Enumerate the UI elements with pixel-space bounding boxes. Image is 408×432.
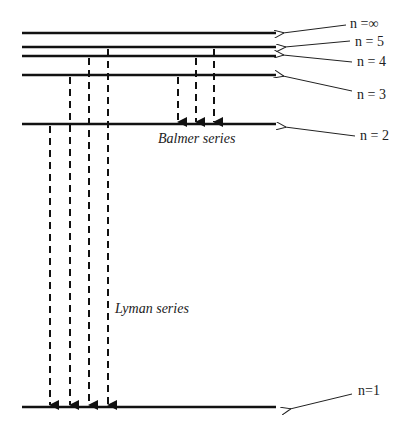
label-n1: n=1 — [358, 383, 380, 398]
lyman-transitions — [50, 49, 108, 405]
pointer-n4 — [283, 55, 352, 62]
balmer-transitions — [178, 49, 214, 122]
pointer-n2 — [285, 127, 355, 136]
label-n2: n = 2 — [360, 128, 389, 143]
balmer-series-label: Balmer series — [158, 131, 236, 146]
pointer-n3 — [283, 76, 352, 91]
label-n4: n = 4 — [357, 54, 386, 69]
pointer-n5 — [285, 41, 350, 47]
lyman-series-label: Lyman series — [114, 301, 189, 316]
label-n-infinity: n =∞ — [350, 16, 378, 31]
pointer-n-infinity — [283, 25, 346, 33]
pointer-n1 — [290, 394, 352, 409]
label-n3: n = 3 — [357, 87, 386, 102]
label-n5: n = 5 — [355, 34, 384, 49]
energy-level-diagram: n =∞ n = 5 n = 4 n = 3 n = 2 n=1 Balmer … — [0, 0, 408, 432]
